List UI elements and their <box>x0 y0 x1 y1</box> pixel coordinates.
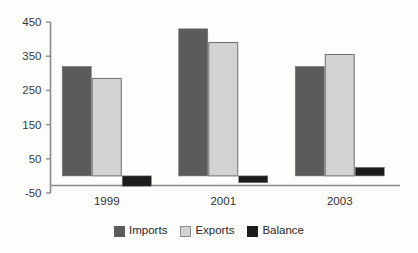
legend-entry-imports: Imports <box>114 225 167 237</box>
bar-exports-2001[interactable] <box>209 43 238 176</box>
bar-group-container <box>62 29 384 186</box>
bar-imports-2001[interactable] <box>179 29 208 176</box>
chart-legend: Imports Exports Balance <box>0 222 418 240</box>
bar-chart: -5050150250350450 199920012003 <box>0 0 418 215</box>
legend-entry-balance: Balance <box>247 225 304 237</box>
square-swatch-icon <box>247 226 258 237</box>
chart-plot-svg: -5050150250350450 199920012003 <box>0 0 418 215</box>
bar-imports-2003[interactable] <box>295 66 324 175</box>
bar-balance-1999[interactable] <box>122 176 151 186</box>
y-axis-tick-labels: -5050150250350450 <box>22 16 41 199</box>
chart-page: -5050150250350450 199920012003 Imports E… <box>0 0 418 253</box>
legend-label: Balance <box>262 225 304 237</box>
y-axis-tick-label: -50 <box>25 187 42 199</box>
y-axis-tick-label: 50 <box>29 153 42 165</box>
x-axis-tick-label: 2001 <box>210 195 236 207</box>
legend-entry-exports: Exports <box>180 225 234 237</box>
y-axis-tick-label: 350 <box>22 50 41 62</box>
square-swatch-icon <box>114 226 125 237</box>
square-swatch-icon <box>180 226 191 237</box>
y-axis-tick-label: 450 <box>22 16 41 28</box>
x-axis-tick-label: 1999 <box>94 195 120 207</box>
y-axis-tick-label: 150 <box>22 119 41 131</box>
bar-balance-2001[interactable] <box>239 176 268 183</box>
bar-exports-2003[interactable] <box>325 54 354 175</box>
legend-label: Imports <box>129 225 167 237</box>
bar-balance-2003[interactable] <box>355 167 384 176</box>
legend-label: Exports <box>195 225 234 237</box>
bar-exports-1999[interactable] <box>92 78 121 175</box>
y-axis-tick-label: 250 <box>22 84 41 96</box>
x-axis-tick-label: 2003 <box>327 195 353 207</box>
bar-imports-1999[interactable] <box>62 66 91 175</box>
x-axis-tick-labels: 199920012003 <box>94 195 353 207</box>
